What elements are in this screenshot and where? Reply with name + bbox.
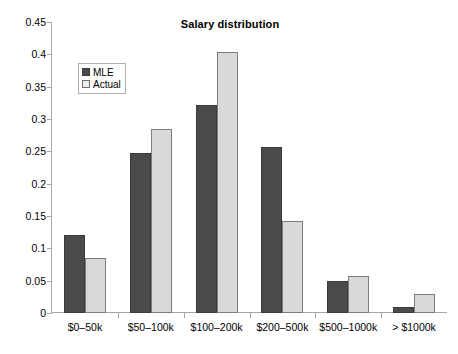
bar-actual-1 <box>151 129 172 313</box>
y-axis-tick-label: 0.45 <box>2 16 46 28</box>
bar-actual-4 <box>348 276 369 313</box>
y-axis-tick-label: 0.3 <box>2 113 46 125</box>
legend-label-mle: MLE <box>93 67 114 78</box>
x-axis-tick-label: $500–1000k <box>319 321 377 333</box>
y-axis-tick-label: 0.2 <box>2 178 46 190</box>
legend-item-actual: Actual <box>82 78 121 90</box>
y-axis-tick <box>47 313 52 314</box>
bar-mle-0 <box>64 235 85 313</box>
bar-mle-4 <box>327 281 348 313</box>
bottom-margin <box>0 344 458 354</box>
legend-item-mle: MLE <box>82 66 121 78</box>
bar-actual-5 <box>414 294 435 313</box>
legend-label-actual: Actual <box>93 79 121 90</box>
bar-mle-2 <box>196 105 217 313</box>
x-axis-tick-label: $0–50k <box>68 321 102 333</box>
y-axis-tick-label: 0.1 <box>2 242 46 254</box>
y-axis-tick-label: 0.05 <box>2 275 46 287</box>
x-axis-tick <box>315 313 316 318</box>
chart-legend: MLE Actual <box>78 63 126 94</box>
x-axis-tick <box>184 313 185 318</box>
x-axis-tick <box>118 313 119 318</box>
x-axis-tick <box>250 313 251 318</box>
bar-mle-1 <box>130 153 151 313</box>
y-axis-tick-label: 0.4 <box>2 48 46 60</box>
x-axis-tick <box>381 313 382 318</box>
y-axis-tick-label: 0.35 <box>2 81 46 93</box>
x-axis-tick-label: $50–100k <box>128 321 174 333</box>
y-axis-tick-label: 0.15 <box>2 210 46 222</box>
legend-swatch-mle-icon <box>82 68 90 76</box>
bar-mle-5 <box>393 307 414 313</box>
bar-mle-3 <box>261 147 282 313</box>
legend-swatch-actual-icon <box>82 80 90 88</box>
bar-actual-2 <box>217 52 238 313</box>
x-axis-tick-label: $200–500k <box>256 321 308 333</box>
bar-actual-3 <box>282 221 303 313</box>
y-axis-tick-label: 0.25 <box>2 145 46 157</box>
chart-screenshot: Salary distribution 00.050.10.150.20.250… <box>0 0 458 354</box>
x-axis-tick-label: > $1000k <box>392 321 436 333</box>
x-axis-tick-label: $100–200k <box>191 321 243 333</box>
bar-actual-0 <box>85 258 106 313</box>
y-axis-tick-label: 0 <box>2 307 46 319</box>
